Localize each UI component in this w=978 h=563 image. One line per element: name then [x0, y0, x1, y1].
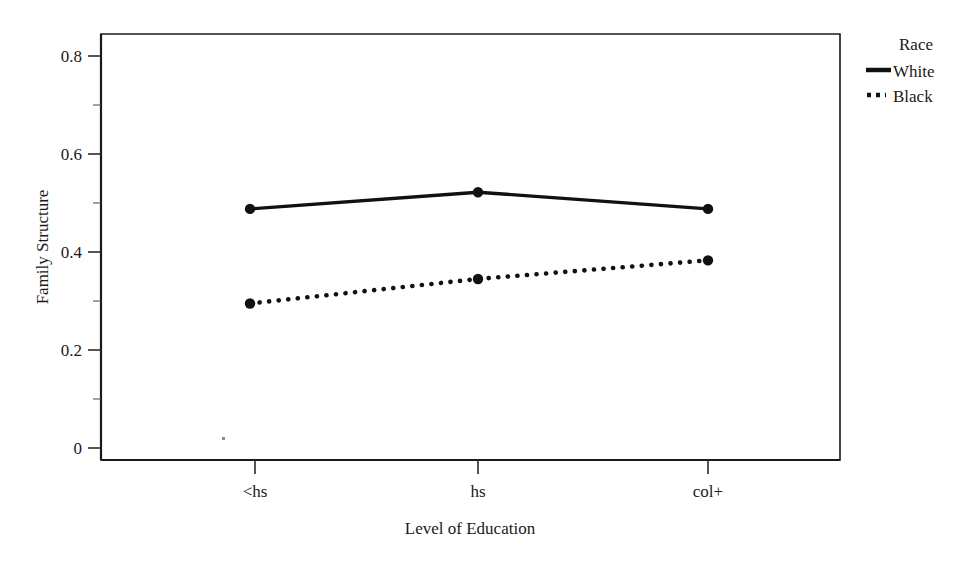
x-axis-ticks	[255, 460, 708, 474]
series-white	[245, 187, 713, 214]
series-white-point-2	[703, 204, 713, 214]
series-black	[245, 255, 713, 309]
x-axis-tick-labels: <hs hs col+	[243, 482, 724, 501]
y-axis-title: Family Structure	[33, 190, 52, 305]
x-tick-label-hs: hs	[470, 482, 485, 501]
legend-label-white: White	[893, 62, 935, 81]
plot-frame	[101, 34, 840, 460]
series-black-point-2	[703, 255, 713, 265]
y-tick-label-0: 0	[74, 439, 83, 458]
scan-speck	[222, 437, 225, 440]
x-tick-label-colplus: col+	[693, 482, 723, 501]
legend: Race White Black	[866, 35, 935, 106]
x-axis-title: Level of Education	[405, 519, 536, 538]
y-tick-label-06: 0.6	[61, 145, 82, 164]
y-axis-tick-labels: 0.8 0.6 0.4 0.2 0	[61, 47, 83, 458]
series-black-point-0	[245, 298, 255, 308]
legend-label-black: Black	[893, 87, 933, 106]
legend-item-black[interactable]: Black	[867, 87, 933, 106]
series-black-point-1	[473, 274, 483, 284]
interaction-plot-chart: 0.8 0.6 0.4 0.2 0 Family Structure <hs h…	[0, 0, 978, 563]
chart-page: 0.8 0.6 0.4 0.2 0 Family Structure <hs h…	[0, 0, 978, 563]
x-tick-label-lths: <hs	[243, 482, 268, 501]
series-white-point-0	[245, 204, 255, 214]
y-tick-label-04: 0.4	[61, 243, 83, 262]
legend-item-white[interactable]: White	[866, 62, 935, 81]
y-tick-label-08: 0.8	[61, 47, 82, 66]
series-white-point-1	[473, 187, 483, 197]
legend-title: Race	[899, 35, 933, 54]
y-tick-label-02: 0.2	[61, 341, 82, 360]
y-axis-ticks	[88, 56, 101, 448]
